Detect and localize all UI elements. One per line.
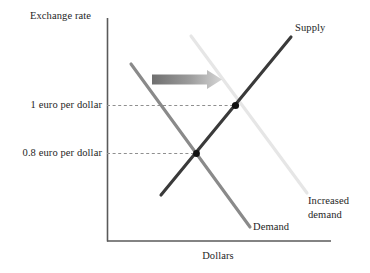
x-axis-title: Dollars [188,250,248,263]
figure-canvas [0,0,370,273]
axis-lines [107,18,331,242]
demand-curve-label: Demand [253,221,289,234]
supply-curve [161,37,291,195]
exchange-rate-supply-demand-figure: Exchange rate Dollars 1 euro per dollar … [0,0,370,273]
y-tick-label-upper: 1 euro per dollar [31,99,102,112]
y-axis-title: Exchange rate [30,10,91,23]
equilibrium-dot-new [232,102,239,109]
demand-curve [131,64,250,227]
supply-curve-label: Supply [295,22,325,35]
increased-demand-curve-label: Increased demand [308,194,370,221]
shift-arrow-shape [152,70,222,89]
equilibrium-dot-initial [193,150,200,157]
y-tick-label-lower: 0.8 euro per dollar [23,147,102,160]
demand-shift-arrow [152,70,222,89]
